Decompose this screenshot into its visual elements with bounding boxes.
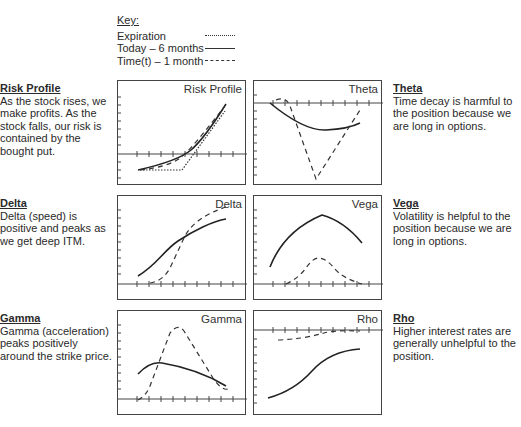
gamma-plot <box>118 311 247 416</box>
vega-label: Vega <box>352 198 378 210</box>
gamma-label: Gamma <box>201 313 242 325</box>
theta-chart: Theta <box>253 80 382 185</box>
theta-label: Theta <box>349 83 378 95</box>
theta-plot <box>254 81 383 186</box>
risk-profile-description: Risk Profile As the stock rises, we make… <box>0 82 112 157</box>
vega-chart: Vega <box>253 195 382 300</box>
gamma-chart: Gamma <box>117 310 246 415</box>
theta-description: Theta Time decay is harmful to the posit… <box>393 82 518 132</box>
risk-profile-label: Risk Profile <box>184 83 242 95</box>
vega-plot <box>254 196 383 301</box>
gamma-description: Gamma Gamma (acceleration) peaks positiv… <box>0 312 112 362</box>
delta-description: Delta Delta (speed) is positive and peak… <box>0 197 112 247</box>
rho-label: Rho <box>357 313 378 325</box>
legend-item-time-t: Time(t) – 1 month <box>117 55 235 68</box>
delta-plot <box>118 196 247 301</box>
legend-item-expiration: Expiration <box>117 30 235 43</box>
risk-profile-plot <box>118 81 247 186</box>
rho-chart: Rho <box>253 310 382 415</box>
delta-chart: Delta <box>117 195 246 300</box>
delta-label: Delta <box>215 198 242 210</box>
solid-line-swatch <box>205 48 235 49</box>
vega-description: Vega Volatility is helpful to the positi… <box>393 197 518 247</box>
dashed-line-swatch <box>205 60 235 61</box>
dotted-line-swatch <box>205 35 235 36</box>
risk-profile-chart: Risk Profile <box>117 80 246 185</box>
rho-plot <box>254 311 383 416</box>
rho-description: Rho Higher interest rates are generally … <box>393 312 518 362</box>
legend-item-today: Today – 6 months <box>117 42 235 55</box>
legend-title: Key: <box>117 14 235 27</box>
legend: Key: Expiration Today – 6 months Time(t)… <box>117 14 235 67</box>
